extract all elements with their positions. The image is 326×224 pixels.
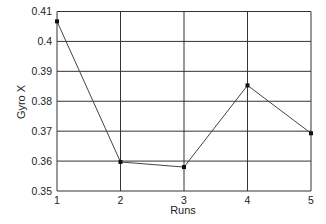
x-tick-label: 1 [54, 194, 60, 206]
y-tick-label: 0.4 [37, 35, 52, 47]
grid-lines [57, 12, 311, 192]
x-tick-label: 2 [118, 194, 124, 206]
x-tick-label: 5 [308, 194, 314, 206]
y-tick-label: 0.36 [32, 155, 53, 167]
y-axis-label: Gyro X [15, 84, 27, 119]
y-tick-label: 0.38 [32, 95, 53, 107]
x-tick-label: 4 [245, 194, 251, 206]
y-tick-label: 0.41 [32, 5, 53, 17]
data-point [246, 83, 250, 87]
y-tick-label: 0.35 [32, 185, 53, 197]
line-chart: 0.350.360.370.380.390.40.41 12345 Gyro X… [0, 0, 326, 224]
data-point [55, 19, 59, 23]
y-tick-label: 0.37 [32, 125, 53, 137]
data-point [182, 165, 186, 169]
y-axis-ticks: 0.350.360.370.380.390.40.41 [32, 5, 53, 197]
data-point [309, 131, 313, 135]
y-tick-label: 0.39 [32, 65, 53, 77]
x-axis-label: Runs [170, 204, 196, 216]
data-point [119, 160, 123, 164]
